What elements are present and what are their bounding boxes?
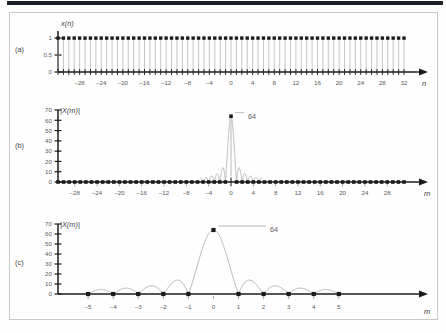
xaxis-label-a: n — [422, 79, 426, 88]
panel-label-a: (a) — [15, 45, 24, 54]
figure-root: 00.51–28–24–20–16–12–8–40481216202428320… — [0, 0, 446, 333]
peak-annotation-c: 64 — [270, 225, 278, 234]
signal-label-a: x(n) — [60, 19, 74, 28]
signal-label-c: |X(m)| — [60, 220, 80, 229]
panel-label-c: (c) — [15, 258, 24, 267]
signal-label-b: |X(m)| — [60, 106, 80, 115]
xaxis-label-b: m — [424, 189, 430, 198]
peak-annotation-b: 64 — [248, 112, 256, 121]
xaxis-label-c: m — [424, 307, 430, 316]
labels-svg: (a) x(n) n (b) |X(m)| m 64 (c) |X(m)| m … — [0, 0, 446, 333]
panel-label-b: (b) — [15, 141, 24, 150]
